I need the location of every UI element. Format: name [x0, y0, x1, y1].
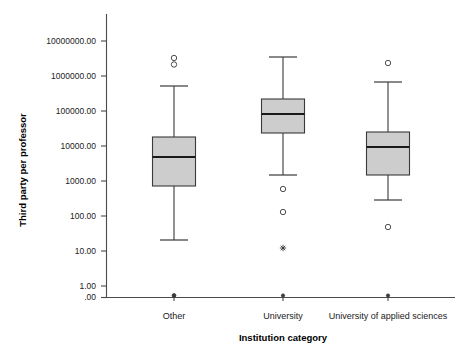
outlier-point [280, 209, 285, 214]
axis-zero-point-other [172, 294, 176, 298]
y-axis-title: Third party per professor [17, 113, 28, 227]
y-tick-label-0: .00 [84, 292, 96, 302]
y-tick-label-10000000: 10000000.00 [46, 36, 96, 46]
axis-zero-point-applied-sciences [386, 294, 389, 297]
outlier-point [280, 186, 285, 191]
extreme-outlier-point [280, 245, 286, 251]
iqr-box [367, 132, 410, 175]
iqr-box [153, 137, 196, 186]
outlier-point [171, 55, 176, 60]
y-tick-label-1000000: 1000000.00 [51, 71, 96, 81]
outlier-point [385, 60, 390, 65]
axis-zero-point-university [281, 294, 284, 297]
chart-canvas: Third party per professor 10000000.00 10… [0, 0, 463, 356]
y-tick-label-10000: 10000.00 [61, 141, 97, 151]
y-tick-label-100: 100.00 [70, 211, 96, 221]
x-axis-title: Institution category [239, 332, 328, 343]
iqr-box [262, 99, 305, 133]
x-tick-label-other: Other [163, 311, 186, 321]
boxplot-chart: Third party per professor 10000000.00 10… [0, 0, 463, 356]
x-tick-label-university: University [263, 311, 303, 321]
y-tick-label-1: 1.00 [79, 281, 96, 291]
y-tick-label-10: 10.00 [75, 246, 97, 256]
box-plot-university [262, 57, 305, 251]
y-tick-label-1000: 1000.00 [65, 176, 96, 186]
x-tick-label-applied-sciences: University of applied sciences [329, 311, 448, 321]
y-tick-label-100000: 100000.00 [56, 106, 96, 116]
box-plot-other [153, 55, 196, 240]
box-plot-applied-sciences [367, 60, 410, 229]
outlier-point [171, 62, 176, 67]
outlier-point [385, 224, 390, 229]
